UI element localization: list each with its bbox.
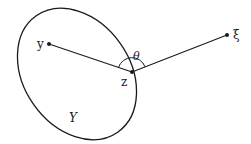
point-xi [225, 33, 229, 37]
point-z [130, 70, 134, 74]
label-region-Y: Y [69, 111, 78, 125]
diagram-canvas: y z ξ θ Y [0, 0, 251, 144]
region-ellipse [0, 0, 161, 144]
label-theta: θ [133, 50, 140, 63]
label-xi: ξ [233, 28, 240, 42]
segment-y-z [49, 44, 132, 72]
segment-z-xi [132, 35, 227, 72]
point-y [47, 42, 51, 46]
label-z: z [121, 75, 127, 89]
label-y: y [36, 37, 44, 51]
